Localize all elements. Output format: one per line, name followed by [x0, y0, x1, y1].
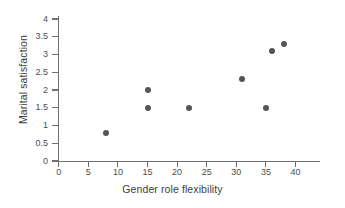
y-axis-tick-label: 0: [43, 157, 48, 166]
data-point: [269, 48, 275, 54]
y-axis-tick: [52, 125, 58, 126]
x-axis-title: Gender role flexibility: [0, 184, 345, 195]
x-axis-tick-label: 10: [106, 168, 130, 177]
y-axis-tick-label: 2.5: [35, 68, 48, 77]
data-point: [103, 130, 109, 136]
y-axis-tick: [52, 160, 58, 161]
data-point: [145, 87, 151, 93]
y-axis-tick: [52, 72, 58, 73]
x-axis-tick-label: 25: [195, 168, 219, 177]
y-axis-tick: [52, 143, 58, 144]
y-axis-tick-label: 4: [43, 15, 48, 24]
data-point: [239, 76, 245, 82]
x-axis-tick-label: 15: [136, 168, 160, 177]
x-axis-tick-label: 5: [76, 168, 100, 177]
y-axis-title: Marital satisfaction: [18, 10, 29, 150]
x-axis-tick-label: 20: [165, 168, 189, 177]
data-point: [281, 41, 287, 47]
y-axis-tick: [52, 18, 58, 19]
x-axis-line: [58, 161, 320, 162]
y-axis-tick-label: 1: [43, 121, 48, 130]
y-axis-tick-label: 3: [43, 50, 48, 59]
y-axis-tick: [52, 54, 58, 55]
y-axis-tick-label: 2: [43, 86, 48, 95]
y-axis-tick: [52, 36, 58, 37]
y-axis-tick: [52, 89, 58, 90]
y-axis-tick-label: 0.5: [35, 139, 48, 148]
data-point: [186, 105, 192, 111]
y-axis-line: [58, 16, 59, 162]
data-point: [145, 105, 151, 111]
y-axis-tick: [52, 107, 58, 108]
x-axis-tick-label: 0: [47, 168, 71, 177]
scatter-chart-figure: 00.511.522.533.54 0510152025303540 Gende…: [0, 0, 345, 208]
x-axis-tick-label: 30: [224, 168, 248, 177]
x-axis-tick-label: 35: [254, 168, 278, 177]
data-point: [263, 105, 269, 111]
y-axis-tick-label: 3.5: [35, 32, 48, 41]
x-axis-tick-label: 40: [284, 168, 308, 177]
y-axis-tick-label: 1.5: [35, 103, 48, 112]
